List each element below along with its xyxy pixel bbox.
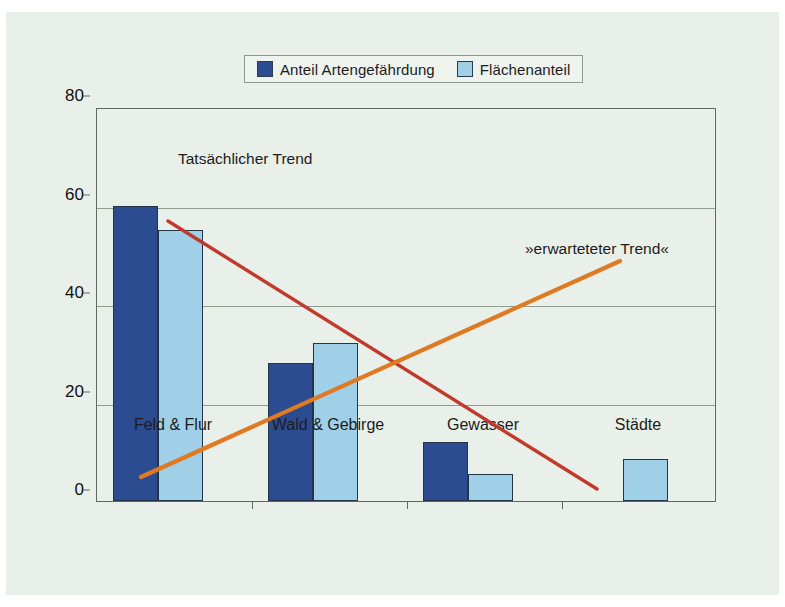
x-label-feld-flur: Feld & Flur — [134, 416, 212, 434]
y-tick-mark-0 — [83, 490, 90, 491]
bar-feld-flur-artengefaehrdung — [113, 206, 158, 502]
actual-trend-label: Tatsächlicher Trend — [178, 150, 312, 168]
x-label-staedte: Städte — [615, 416, 661, 434]
legend-swatch-light — [457, 61, 473, 77]
y-tick-mark-20 — [83, 391, 90, 392]
y-tick-label-60: 60 — [14, 185, 84, 205]
legend-entry-artengefaehrdung: Anteil Artengefährdung — [257, 61, 435, 78]
chart-figure: Anteil Artengefährdung Flächenanteil 80 … — [0, 0, 785, 607]
chart-legend: Anteil Artengefährdung Flächenanteil — [244, 55, 583, 83]
bar-gewaesser-flaechenanteil — [468, 474, 513, 501]
y-tick-label-20: 20 — [14, 382, 84, 402]
bar-staedte-flaechenanteil — [623, 459, 668, 501]
expected-trend-label: »erwarteteter Trend« — [525, 240, 669, 258]
legend-label-dark: Anteil Artengefährdung — [280, 61, 435, 78]
x-label-gewaesser: Gewässer — [447, 416, 519, 434]
x-label-wald-gebirge: Wald & Gebirge — [272, 416, 384, 434]
gridline-60 — [97, 208, 715, 209]
bar-gewaesser-artengefaehrdung — [423, 442, 468, 501]
x-tick-3 — [562, 501, 563, 509]
x-tick-1 — [252, 501, 253, 509]
legend-entry-flaechenanteil: Flächenanteil — [457, 61, 571, 78]
chart-plate: Anteil Artengefährdung Flächenanteil 80 … — [6, 12, 779, 595]
bar-feld-flur-flaechenanteil — [158, 230, 203, 501]
y-tick-label-0: 0 — [14, 480, 84, 500]
y-tick-mark-60 — [83, 194, 90, 195]
legend-label-light: Flächenanteil — [480, 61, 571, 78]
y-tick-mark-80 — [83, 96, 90, 97]
y-tick-label-40: 40 — [14, 283, 84, 303]
y-tick-mark-40 — [83, 293, 90, 294]
y-tick-label-80: 80 — [14, 86, 84, 106]
x-tick-2 — [407, 501, 408, 509]
legend-swatch-dark — [257, 61, 273, 77]
